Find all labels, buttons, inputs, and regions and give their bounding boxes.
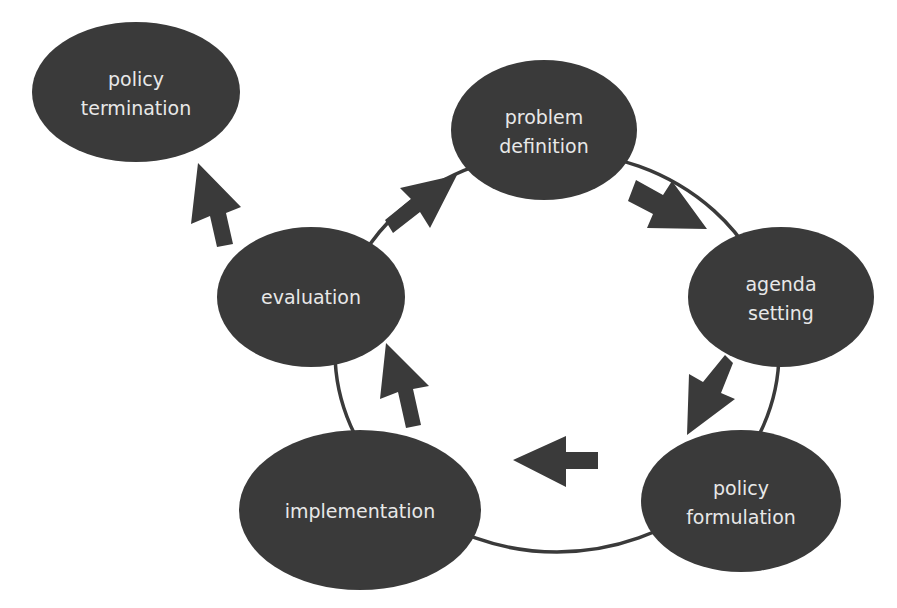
node-evaluation: evaluation xyxy=(217,227,405,367)
node-label-line-1: agenda xyxy=(745,273,816,295)
node-label-line-2: definition xyxy=(499,135,588,157)
node-label-line-2: formulation xyxy=(686,506,796,528)
arrow-implementation-to-evaluation xyxy=(380,343,429,428)
arrow-policy-formulation-to-implementation xyxy=(513,436,598,487)
node-agenda-setting: agenda setting xyxy=(688,227,874,367)
arrow-agenda-setting-to-policy-formulation xyxy=(687,355,735,435)
arrow-evaluation-to-termination xyxy=(191,163,241,247)
node-policy-termination: policy termination xyxy=(32,22,240,162)
node-problem-definition: problem definition xyxy=(451,60,637,200)
node-label-line-1: policy xyxy=(108,68,164,90)
node-label-line-2: termination xyxy=(81,97,191,119)
node-label-line-1: implementation xyxy=(285,500,436,522)
arrow-evaluation-to-problem-definition xyxy=(385,175,457,233)
node-policy-formulation: policy formulation xyxy=(641,430,841,572)
node-label-line-2: setting xyxy=(748,302,814,324)
node-label-line-1: policy xyxy=(713,477,769,499)
arrow-problem-definition-to-agenda-setting xyxy=(628,180,707,229)
node-label-line-1: problem xyxy=(505,106,584,128)
node-implementation: implementation xyxy=(239,430,481,590)
policy-cycle-diagram: policy termination problem definition ag… xyxy=(0,0,897,608)
node-label-line-1: evaluation xyxy=(261,286,361,308)
